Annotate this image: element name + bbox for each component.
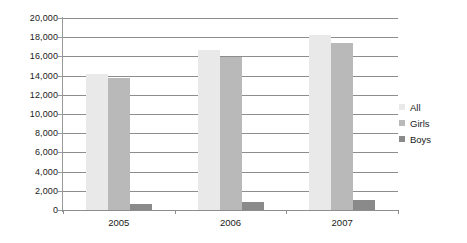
bar-group — [309, 18, 375, 210]
y-tick-mark — [58, 95, 62, 96]
bar-all-2006[interactable] — [198, 50, 220, 210]
y-tick-mark — [58, 76, 62, 77]
bar-all-2007[interactable] — [309, 35, 331, 210]
y-tick-label: 4,000 — [0, 167, 58, 177]
bar-group — [86, 18, 152, 210]
x-tick-mark — [63, 210, 64, 214]
x-axis-line — [62, 210, 398, 211]
x-tick-mark — [175, 210, 176, 214]
x-tick-mark — [286, 210, 287, 214]
y-tick-label: 12,000 — [0, 90, 58, 100]
legend-item-all[interactable]: All — [399, 99, 465, 115]
bar-boys-2007[interactable] — [353, 200, 375, 210]
legend-label: Boys — [410, 134, 431, 145]
y-tick-label: 20,000 — [0, 13, 58, 23]
y-tick-label: 14,000 — [0, 71, 58, 81]
legend-item-girls[interactable]: Girls — [399, 115, 465, 131]
y-tick-label: 8,000 — [0, 128, 58, 138]
bar-girls-2006[interactable] — [220, 57, 242, 210]
bar-chart: 02,0004,0006,0008,00010,00012,00014,0001… — [0, 0, 467, 243]
legend-label: Girls — [410, 118, 430, 129]
bar-girls-2007[interactable] — [331, 43, 353, 210]
chart-legend: AllGirlsBoys — [399, 99, 465, 147]
y-tick-mark — [58, 114, 62, 115]
x-tick-label: 2007 — [332, 217, 353, 228]
y-tick-mark — [58, 191, 62, 192]
y-tick-label: 2,000 — [0, 186, 58, 196]
bar-all-2005[interactable] — [86, 74, 108, 210]
y-tick-label: 0 — [0, 205, 58, 215]
y-tick-mark — [58, 56, 62, 57]
y-tick-label: 6,000 — [0, 147, 58, 157]
bars-layer — [63, 18, 398, 210]
bar-group — [198, 18, 264, 210]
legend-swatch-icon — [399, 104, 405, 110]
y-axis: 02,0004,0006,0008,00010,00012,00014,0001… — [0, 0, 58, 243]
x-tick-label: 2006 — [220, 217, 241, 228]
x-tick-mark — [398, 210, 399, 214]
x-tick-label: 2005 — [108, 217, 129, 228]
bar-girls-2005[interactable] — [108, 78, 130, 210]
legend-swatch-icon — [399, 120, 405, 126]
y-tick-mark — [58, 133, 62, 134]
y-tick-mark — [58, 18, 62, 19]
legend-swatch-icon — [399, 136, 405, 142]
y-tick-mark — [58, 152, 62, 153]
legend-label: All — [410, 102, 421, 113]
y-tick-label: 10,000 — [0, 109, 58, 119]
y-tick-label: 18,000 — [0, 32, 58, 42]
y-tick-mark — [58, 210, 62, 211]
y-tick-mark — [58, 37, 62, 38]
y-tick-label: 16,000 — [0, 51, 58, 61]
y-tick-mark — [58, 172, 62, 173]
bar-boys-2006[interactable] — [242, 202, 264, 210]
legend-item-boys[interactable]: Boys — [399, 131, 465, 147]
